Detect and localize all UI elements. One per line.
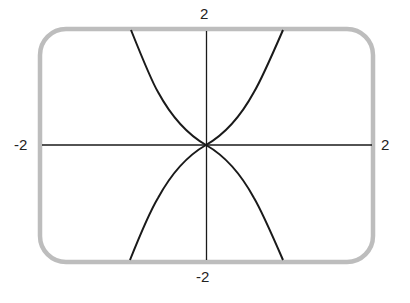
y-max-label: 2 [200,6,208,21]
x-min-label: -2 [14,137,27,152]
x-max-label: 2 [381,137,389,152]
graph-plot [0,0,410,303]
y-min-label: -2 [196,269,209,284]
